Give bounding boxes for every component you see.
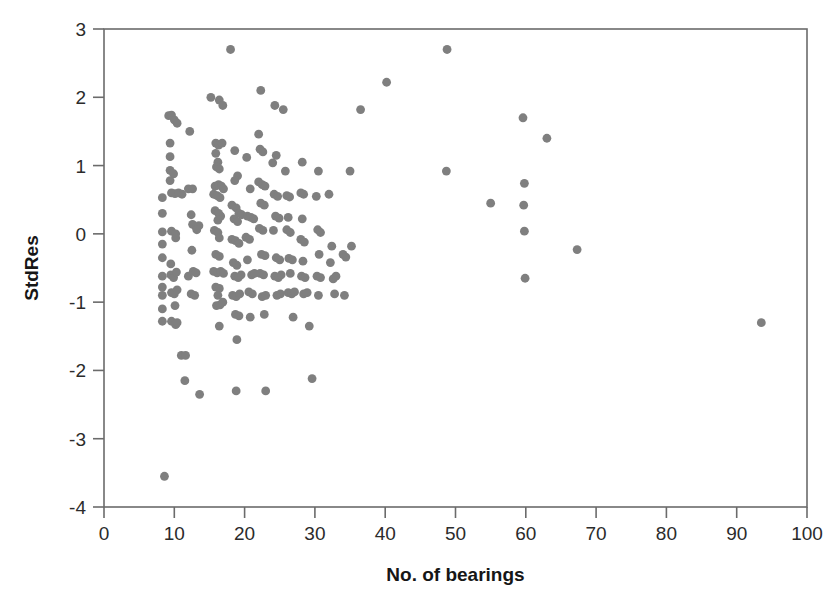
data-point	[316, 228, 325, 237]
data-point	[158, 283, 167, 292]
data-point	[443, 45, 452, 54]
data-point	[300, 238, 309, 247]
y-tick-label: 2	[75, 87, 86, 108]
data-point	[233, 217, 242, 226]
data-point	[218, 298, 227, 307]
data-point	[290, 288, 299, 297]
data-point	[284, 213, 293, 222]
data-point	[158, 317, 167, 326]
y-tick-label: -3	[69, 429, 86, 450]
data-point	[261, 291, 270, 300]
data-point	[330, 290, 339, 299]
data-point	[519, 201, 528, 210]
data-point	[286, 269, 295, 278]
data-point	[277, 270, 286, 279]
data-point	[312, 192, 321, 201]
y-axis-ticks: -4-3-2-10123	[69, 19, 104, 518]
data-point	[346, 167, 355, 176]
data-point	[192, 268, 201, 277]
data-point	[245, 235, 254, 244]
data-points-layer	[158, 45, 766, 481]
data-point	[259, 270, 268, 279]
data-point	[232, 261, 241, 270]
x-tick-label: 80	[656, 523, 677, 544]
data-point	[158, 305, 167, 314]
data-point	[347, 242, 356, 251]
data-point	[187, 210, 196, 219]
data-point	[520, 227, 529, 236]
data-point	[172, 268, 181, 277]
data-point	[340, 291, 349, 300]
data-point	[243, 255, 252, 264]
data-point	[219, 184, 228, 193]
data-point	[285, 193, 294, 202]
data-point	[192, 225, 201, 234]
data-point	[158, 291, 167, 300]
data-point	[301, 273, 310, 282]
data-point	[173, 318, 182, 327]
data-point	[215, 234, 224, 243]
data-point	[218, 101, 227, 110]
data-point	[281, 167, 290, 176]
data-point	[180, 376, 189, 385]
y-tick-label: 3	[75, 19, 86, 40]
data-point	[166, 176, 175, 185]
data-point	[237, 270, 246, 279]
data-point	[166, 152, 175, 161]
data-point	[188, 184, 197, 193]
data-point	[181, 351, 190, 360]
data-point	[289, 313, 298, 322]
data-point	[326, 258, 335, 267]
data-point	[327, 242, 336, 251]
data-point	[308, 374, 317, 383]
data-point	[279, 105, 288, 114]
data-point	[316, 273, 325, 282]
data-point	[288, 255, 297, 264]
data-point	[276, 290, 285, 299]
x-tick-label: 90	[726, 523, 747, 544]
data-point	[206, 93, 215, 102]
data-point	[166, 260, 175, 269]
data-point	[190, 291, 199, 300]
x-tick-label: 0	[99, 523, 110, 544]
data-point	[158, 227, 167, 236]
data-point	[519, 113, 528, 122]
data-point	[573, 245, 582, 254]
data-point	[275, 255, 284, 264]
data-point	[158, 209, 167, 218]
data-point	[261, 251, 270, 260]
data-point	[215, 252, 224, 261]
data-point	[232, 335, 241, 344]
data-point	[158, 272, 167, 281]
x-axis-title: No. of bearings	[386, 564, 524, 585]
data-point	[166, 139, 175, 148]
data-point	[275, 214, 284, 223]
data-point	[341, 253, 350, 262]
data-point	[442, 167, 451, 176]
data-point	[185, 127, 194, 136]
data-point	[232, 387, 241, 396]
data-point	[261, 182, 270, 191]
y-tick-label: 1	[75, 156, 86, 177]
data-point	[486, 199, 495, 208]
data-point	[215, 322, 224, 331]
y-tick-label: -1	[69, 292, 86, 313]
data-point	[195, 390, 204, 399]
y-tick-label: -2	[69, 360, 86, 381]
x-tick-label: 100	[791, 523, 823, 544]
data-point	[332, 272, 341, 281]
x-tick-label: 30	[304, 523, 325, 544]
data-point	[260, 201, 269, 210]
data-point	[270, 101, 279, 110]
data-point	[261, 387, 270, 396]
data-point	[325, 190, 334, 199]
data-point	[272, 151, 281, 160]
data-point	[269, 226, 278, 235]
y-tick-label: -4	[69, 497, 86, 518]
x-tick-label: 60	[515, 523, 536, 544]
data-point	[246, 184, 255, 193]
data-point	[286, 228, 295, 237]
x-tick-label: 10	[164, 523, 185, 544]
x-axis-ticks: 0102030405060708090100	[99, 507, 823, 544]
data-point	[303, 288, 312, 297]
